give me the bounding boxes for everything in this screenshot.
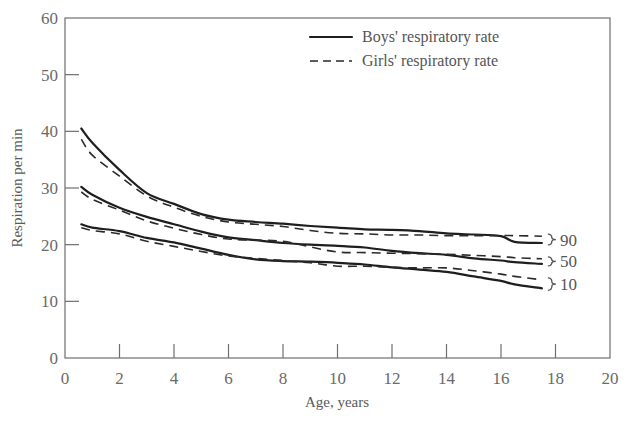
brace-icon [548,257,556,266]
percentile-label-90: 90 [560,231,577,250]
y-tick-label: 50 [41,66,58,85]
y-tick-label: 60 [41,9,58,28]
respiratory-rate-chart: 0102030405060 02468101214161820 Respirat… [0,0,628,426]
brace-icon [548,234,556,245]
brace-icon [548,278,556,291]
x-axis: 02468101214161820 [61,344,619,388]
x-tick-label: 18 [547,369,564,388]
x-tick-label: 2 [115,369,124,388]
x-tick-label: 8 [279,369,288,388]
legend: Boys' respiratory rate Girls' respirator… [310,28,499,70]
y-tick-label: 20 [41,236,58,255]
boys-90th-percentile-line [81,129,542,244]
x-tick-label: 12 [384,369,401,388]
y-tick-label: 10 [41,292,58,311]
legend-boys-label: Boys' respiratory rate [362,28,499,46]
y-axis: 0102030405060 [41,9,79,368]
x-tick-label: 6 [224,369,233,388]
y-tick-label: 30 [41,179,58,198]
x-tick-label: 20 [602,369,619,388]
x-tick-label: 4 [170,369,179,388]
percentile-labels: 905010 [548,231,577,294]
y-tick-label: 40 [41,122,58,141]
x-tick-label: 16 [493,369,510,388]
x-axis-title: Age, years [305,394,369,410]
x-tick-label: 10 [329,369,346,388]
x-tick-label: 0 [61,369,70,388]
percentile-label-50: 50 [560,252,577,271]
plot-frame [65,18,610,358]
y-axis-title: Respiration per min [9,128,25,248]
y-tick-label: 0 [50,349,59,368]
series-lines [81,129,542,289]
legend-girls-label: Girls' respiratory rate [362,52,498,70]
x-tick-label: 14 [438,369,456,388]
percentile-label-10: 10 [560,275,577,294]
